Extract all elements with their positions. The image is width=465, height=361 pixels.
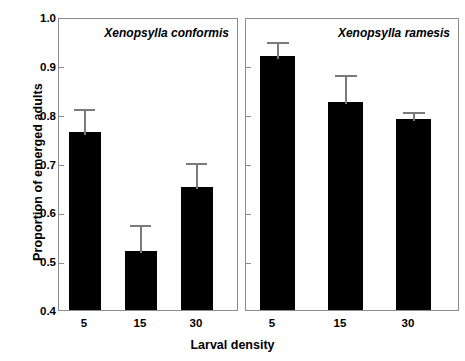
y-tickmark-0.6 (59, 214, 64, 215)
figure-bar-chart: Proportion of emerged adults 1.0 0.9 0.8… (0, 0, 465, 361)
y-tickmark-0.8 (59, 116, 64, 117)
y-tick-label-0.6: 0.6 (22, 207, 56, 219)
bar-conformis-30 (181, 187, 213, 310)
bar-ramesis-30 (396, 119, 431, 310)
errorbar-cap-ramesis-30 (403, 112, 425, 114)
y-tickmark-right-0.7 (246, 165, 251, 166)
y-tickmark-0.9 (59, 67, 64, 68)
y-tick-label-0.7: 0.7 (22, 159, 56, 171)
panel-xenopsylla-conformis: Xenopsylla conformis (58, 18, 238, 311)
y-tick-label-1.0: 1.0 (22, 12, 56, 24)
errorbar-line-conformis-5 (84, 109, 86, 135)
x-tick-label-right-5: 5 (252, 317, 292, 329)
x-tick-label-right-30: 30 (388, 317, 428, 329)
errorbar-line-conformis-15 (140, 225, 142, 253)
panel-xenopsylla-ramesis: Xenopsylla ramesis (245, 18, 459, 311)
plot-area-left (59, 19, 237, 310)
bar-ramesis-5 (260, 56, 295, 310)
y-tick-label-0.8: 0.8 (22, 110, 56, 122)
errorbar-cap-ramesis-15 (335, 75, 357, 77)
plot-area-right (246, 19, 458, 310)
x-tick-label-left-5: 5 (64, 317, 104, 329)
y-tick-label-0.9: 0.9 (22, 61, 56, 73)
errorbar-line-conformis-30 (196, 163, 198, 189)
errorbar-cap-ramesis-5 (267, 42, 289, 44)
y-tickmark-right-0.5 (246, 263, 251, 264)
bar-conformis-5 (69, 132, 101, 310)
errorbar-cap-conformis-30 (186, 163, 207, 165)
y-tickmark-right-0.8 (246, 116, 251, 117)
y-tickmark-right-0.6 (246, 214, 251, 215)
y-tickmark-right-0.9 (246, 67, 251, 68)
errorbar-cap-conformis-5 (74, 109, 95, 111)
y-tick-label-0.4: 0.4 (22, 305, 56, 317)
y-tick-label-0.5: 0.5 (22, 256, 56, 268)
bar-ramesis-15 (328, 102, 363, 310)
bar-conformis-15 (125, 251, 157, 310)
y-tickmark-0.7 (59, 165, 64, 166)
x-axis-label: Larval density (0, 338, 465, 352)
x-tick-label-right-15: 15 (320, 317, 360, 329)
x-tick-label-left-30: 30 (176, 317, 216, 329)
errorbar-line-ramesis-15 (345, 75, 347, 104)
errorbar-line-ramesis-5 (277, 42, 279, 59)
x-tick-label-left-15: 15 (120, 317, 160, 329)
errorbar-cap-conformis-15 (130, 225, 151, 227)
y-tickmark-0.5 (59, 263, 64, 264)
